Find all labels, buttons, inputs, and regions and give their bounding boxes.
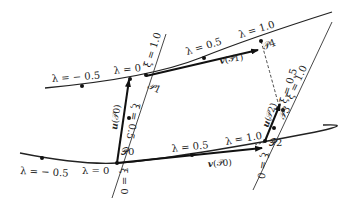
label-top-lambda-0: λ = 0: [113, 62, 141, 76]
label-p2: 𝒫2: [269, 137, 282, 148]
label-left-xi-0: ξ = 0: [119, 168, 130, 195]
dot-p0: [115, 161, 119, 165]
label-p1: 𝒫1: [146, 80, 163, 96]
diagram-canvas: λ = − 0.5 λ = 0 λ = 0.5 λ = 1.0 λ = − 0.…: [0, 0, 350, 210]
label-p4: 𝒫4: [261, 37, 277, 52]
dot-right-xi-05: [272, 126, 276, 130]
label-vector-u-p0: u(𝒫0): [109, 104, 122, 130]
dot-top-0: [128, 77, 132, 81]
label-left-xi-05: ξ = 0.5: [125, 103, 142, 141]
dot-p2: [263, 139, 267, 143]
dot-top-05: [202, 56, 206, 60]
label-bot-lambda-0: λ = 0: [82, 165, 109, 176]
label-vector-v-p0: v(𝒫0): [207, 157, 232, 169]
dot-top-m05: [80, 84, 84, 88]
dot-bot-m05: [40, 156, 44, 160]
label-p0: 𝒫0: [121, 146, 134, 157]
dot-bot-05: [190, 153, 194, 157]
label-bot-lambda-m05: λ = − 0.5: [20, 165, 69, 179]
label-bot-lambda-10: λ = 1.0: [224, 130, 262, 147]
label-left-xi-10: ξ = 1.0: [141, 31, 163, 69]
dot-p1: [144, 73, 148, 77]
label-vector-v-p1: v(𝒫1): [219, 52, 244, 66]
label-right-xi-0: ξ = 0: [255, 152, 270, 180]
label-top-lambda-05: λ = 0.5: [184, 36, 223, 57]
diagram-svg: λ = − 0.5 λ = 0 λ = 0.5 λ = 1.0 λ = − 0.…: [0, 0, 350, 210]
